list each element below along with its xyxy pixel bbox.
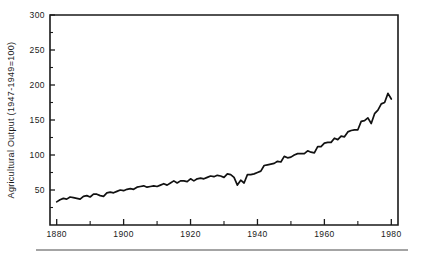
x-axis-tick-label: 1920 <box>180 229 201 239</box>
x-axis-tick-label: 1980 <box>381 229 402 239</box>
agricultural-output-line-chart: 50100150200250300 1880190019201940196019… <box>0 0 422 266</box>
y-axis-tick-label: 250 <box>30 45 45 55</box>
y-axis-tick-label: 200 <box>30 80 45 90</box>
x-axis-tick-label: 1960 <box>314 229 335 239</box>
x-axis-tick-label: 1880 <box>46 229 67 239</box>
x-axis-tick-label: 1940 <box>247 229 268 239</box>
x-axis-tick-label: 1900 <box>113 229 134 239</box>
y-axis-tick-label: 300 <box>30 10 45 20</box>
y-axis-tick-label: 150 <box>30 115 45 125</box>
y-axis-tick-label: 100 <box>30 150 45 160</box>
chart-background <box>0 0 422 266</box>
y-axis-title: Agricultural Output (1947-1949=100) <box>6 42 16 199</box>
figure-container: 50100150200250300 1880190019201940196019… <box>0 0 422 266</box>
y-axis-tick-label: 50 <box>35 185 45 195</box>
